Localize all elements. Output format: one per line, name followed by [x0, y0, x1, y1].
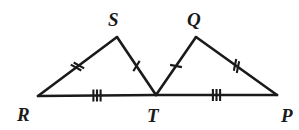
vertex-label-p: P	[280, 105, 293, 126]
vertex-label-r: R	[16, 104, 30, 125]
tick-group-tq	[170, 65, 182, 67]
segment-rs	[38, 37, 117, 96]
vertex-label-t: T	[147, 105, 160, 126]
vertex-label-q: Q	[187, 9, 201, 30]
geometry-canvas: RSTQP	[0, 0, 299, 130]
tick-mark	[234, 59, 236, 71]
tick-mark	[170, 65, 182, 67]
vertex-labels-layer: RSTQP	[16, 9, 293, 126]
vertex-label-s: S	[108, 9, 119, 30]
tick-mark	[237, 61, 239, 73]
geometry-figure: RSTQP	[0, 0, 299, 130]
segment-qp	[196, 37, 277, 95]
